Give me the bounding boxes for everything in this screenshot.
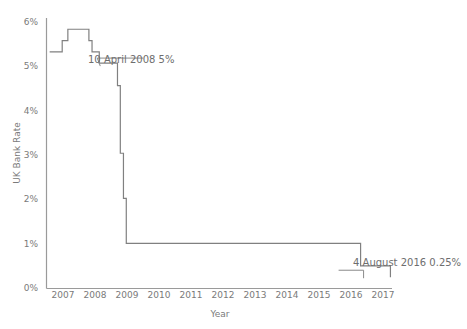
x-axis-title: Year bbox=[0, 309, 440, 319]
annotation-10-april-2008: 10 April 2008 5% bbox=[88, 55, 174, 65]
annotation-4-august-2016: 4 August 2016 0.25% bbox=[353, 258, 461, 268]
y-tick-label-1: 1% bbox=[12, 240, 38, 249]
annotation-leader-2016 bbox=[339, 270, 364, 278]
bank-rate-step-line bbox=[50, 29, 391, 277]
y-tick-label-5: 5% bbox=[12, 62, 38, 71]
y-axis-title: UK Bank Rate bbox=[12, 98, 22, 208]
x-tick-label-2017: 2017 bbox=[363, 291, 403, 300]
y-tick-label-6: 6% bbox=[12, 18, 38, 27]
plot-area bbox=[0, 0, 467, 329]
uk-bank-rate-chart: 0% 1% 2% 3% 4% 5% 6% 2007 2008 2009 2010… bbox=[0, 0, 467, 329]
y-tick-label-0: 0% bbox=[12, 284, 38, 293]
